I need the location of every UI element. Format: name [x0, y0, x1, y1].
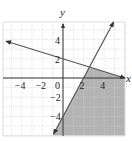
x-tick-label: −4 — [15, 80, 26, 91]
x-tick-label: 2 — [80, 80, 85, 91]
x-tick-label: 4 — [100, 80, 105, 91]
y-axis-label: y — [59, 6, 65, 18]
y-tick-label: −2 — [50, 92, 61, 103]
shaded-region — [53, 67, 125, 136]
boundary-line-1 — [6, 41, 124, 78]
x-tick-label: −2 — [35, 80, 46, 91]
x-tick-label: 0 — [55, 80, 60, 91]
y-tick-label: 4 — [55, 35, 60, 46]
y-tick-label: 2 — [55, 54, 60, 65]
inequality-graph: −4−202442−2−4 x y — [0, 0, 132, 141]
x-axis-label: x — [125, 72, 131, 84]
y-tick-label: −4 — [50, 111, 61, 122]
shaded-polygon — [53, 67, 125, 136]
